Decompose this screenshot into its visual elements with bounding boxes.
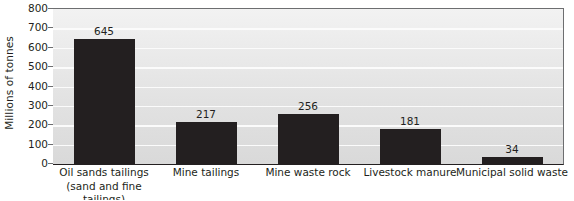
x-axis-label-line1: Municipal solid waste [456,166,568,178]
bar-chart: Millions of tonnes 800 700 600 500 400 3… [0,0,574,200]
y-tick-label: 700 [18,22,48,32]
x-axis-label: Municipal solid waste [452,166,572,180]
y-axis-title: Millions of tonnes [0,0,18,166]
y-tick-label: 400 [18,81,48,91]
bar-value-label: 645 [94,26,114,37]
x-axis-label-line1: Oil sands tailings [59,166,149,178]
bar-value-label: 217 [196,109,216,120]
y-tick-label: 300 [18,100,48,110]
y-tick-label: 600 [18,42,48,52]
bar[interactable]: 34 [482,157,543,164]
bar-value-label: 34 [505,144,518,155]
bar-value-label: 181 [400,116,420,127]
x-axis-label-line1: Mine tailings [173,166,240,178]
x-axis-label-line1: Livestock manure [363,166,456,178]
x-axis-tick-labels: Oil sands tailings(sand and fine tailing… [53,166,565,200]
bar-value-label: 256 [298,101,318,112]
y-tick-label: 200 [18,119,48,129]
y-tick-label: 500 [18,61,48,71]
y-tick-label: 800 [18,3,48,13]
plot-area: 64521725618134 [53,8,564,165]
y-axis-title-text: Millions of tonnes [3,36,15,130]
y-tick-label: 100 [18,139,48,149]
bar[interactable]: 645 [74,39,135,164]
bar[interactable]: 181 [380,129,441,164]
y-axis-tick-labels: 800 700 600 500 400 300 200 100 0 [18,0,48,166]
x-axis-label-line1: Mine waste rock [265,166,350,178]
bar[interactable]: 217 [176,122,237,164]
bar-series: 64521725618134 [53,9,563,164]
bar[interactable]: 256 [278,114,339,164]
x-axis-label-line2: (sand and fine tailings) [44,180,164,201]
